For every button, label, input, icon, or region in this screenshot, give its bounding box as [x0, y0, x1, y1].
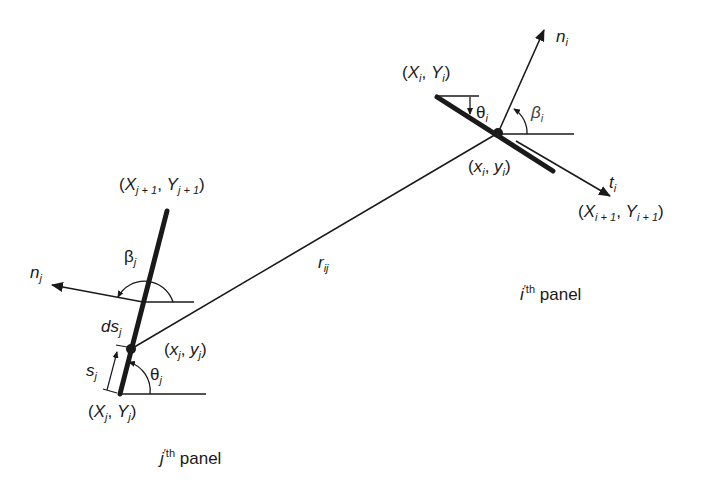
normal-j-label: nj	[30, 264, 42, 284]
point-j	[126, 344, 136, 354]
tangent-i-arrow	[516, 141, 610, 196]
distance-r-ij-label: rij	[318, 254, 329, 274]
panel-i-name: i′th panel	[520, 284, 581, 303]
normal-j-arrow	[52, 285, 143, 302]
ds-j-marker	[116, 345, 127, 347]
panel-j-name: j′th panel	[160, 448, 221, 467]
control-point-i-label: (xi, yi)	[468, 158, 511, 178]
tangent-i-label: ti	[609, 174, 616, 194]
s-j-dimension	[107, 352, 117, 390]
panel-i-start-label: (Xi, Yi)	[402, 64, 450, 84]
theta-j-arc	[129, 362, 150, 394]
theta-i-label: θi	[476, 104, 488, 124]
beta-i-arc	[514, 109, 527, 134]
r-ij-line	[131, 133, 498, 349]
s-j-label: sj	[86, 362, 97, 382]
control-point-i	[493, 128, 503, 138]
panel-i-end-label: (Xi + 1, Yi + 1)	[578, 203, 664, 223]
beta-j-label: βj	[124, 248, 136, 268]
beta-i-label: βi	[531, 104, 543, 124]
panel-j-end-label: (Xj + 1, Yj + 1)	[119, 176, 205, 196]
theta-j-label: θj	[150, 366, 162, 386]
ds-j-label: dsj	[101, 318, 121, 338]
point-j-label: (xj, yj)	[164, 341, 207, 361]
panel-j-start-label: (Xj, Yj)	[88, 403, 136, 423]
normal-i-label: ni	[556, 28, 568, 48]
